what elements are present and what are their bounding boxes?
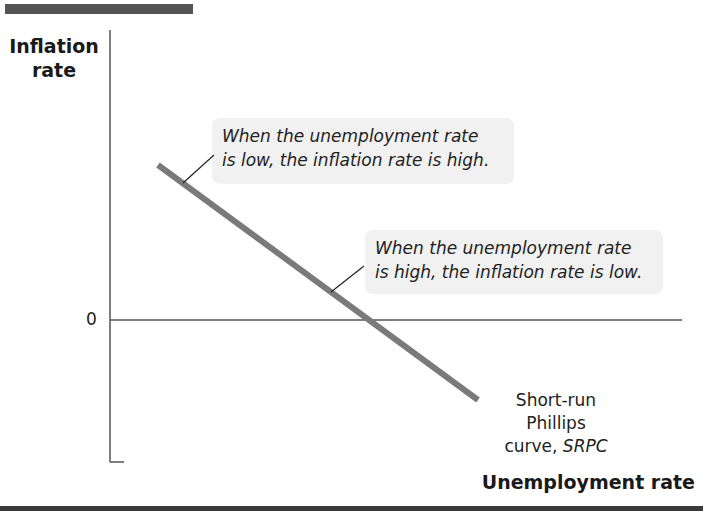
srpc-label-prefix: curve, <box>504 436 562 456</box>
leader-line-high <box>331 266 364 292</box>
y-tick-zero: 0 <box>86 309 97 329</box>
srpc-label-line2: curve, SRPC <box>486 435 626 458</box>
figure-bottom-rule <box>0 506 703 511</box>
srpc-curve <box>158 165 478 400</box>
srpc-label-abbr: SRPC <box>563 436 608 456</box>
leader-line-low <box>183 155 214 183</box>
srpc-label-line1: Short-run Phillips <box>486 389 626 435</box>
x-axis-label: Unemployment rate <box>482 471 695 493</box>
srpc-label: Short-run Phillips curve, SRPC <box>486 389 626 458</box>
